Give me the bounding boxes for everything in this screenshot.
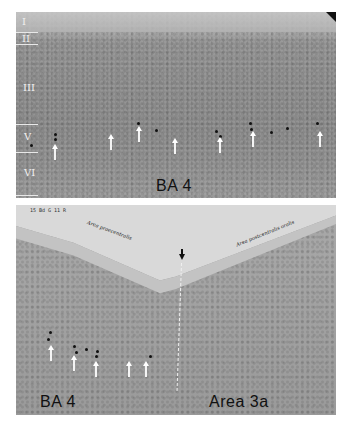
arrow-up-marker [317, 131, 323, 147]
arrow-up-marker [93, 361, 99, 377]
panel-top-ba4-micrograph: I II III V VI BA 4 [16, 12, 336, 198]
panel-label-area-3a: Area 3a [209, 393, 269, 411]
boundary-arrow-down-icon [179, 254, 185, 260]
betz-cell [286, 127, 289, 130]
betz-cell [85, 348, 88, 351]
betz-cell [49, 331, 52, 334]
arrow-up-marker [136, 126, 142, 142]
layer-label-vi: VI [24, 167, 35, 178]
betz-cell [95, 355, 98, 358]
betz-cell [155, 129, 158, 132]
arrow-up-marker [172, 138, 178, 154]
betz-cell [215, 130, 218, 133]
arrow-up-marker [108, 134, 114, 150]
layer-boundary-line [16, 195, 38, 196]
layer-label-i: I [22, 16, 26, 27]
layer-label-iii: III [23, 82, 35, 93]
pial-surface [16, 12, 336, 32]
corner-marker [326, 12, 336, 22]
betz-cell [149, 355, 152, 358]
section-annotation: 15 Bd G 11 R [30, 207, 66, 213]
arrow-up-marker [126, 361, 132, 377]
layer-boundary-line [16, 44, 38, 45]
layer-boundary-line [16, 124, 38, 125]
layer-boundary-line [16, 152, 38, 153]
betz-cell [75, 351, 78, 354]
arrow-up-marker [143, 361, 149, 377]
arrow-up-marker [52, 144, 58, 160]
betz-cell [54, 138, 57, 141]
betz-cell [270, 131, 273, 134]
betz-cell [54, 133, 57, 136]
layer-label-ii: II [22, 33, 30, 44]
betz-cell [73, 345, 76, 348]
arrow-up-marker [250, 131, 256, 147]
betz-cell [316, 122, 319, 125]
arrow-up-marker [217, 137, 223, 153]
betz-cell [30, 144, 33, 147]
panel-label-ba4: BA 4 [156, 177, 192, 195]
arrow-up-marker [71, 355, 77, 371]
panel-bottom-ba4-area3a-micrograph: 15 Bd G 11 R Area praecentralis Area pos… [16, 205, 336, 415]
panel-label-ba4: BA 4 [40, 393, 76, 411]
betz-cell [47, 338, 50, 341]
betz-cell [96, 350, 99, 353]
layer-label-v: V [24, 131, 31, 142]
betz-cell [249, 122, 252, 125]
betz-cell [137, 122, 140, 125]
arrow-up-marker [48, 345, 54, 361]
